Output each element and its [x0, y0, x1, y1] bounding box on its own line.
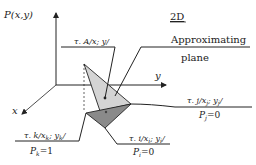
- callout-i-probability: Pi=0: [132, 147, 155, 158]
- callout-j-probability: Pj=0: [198, 110, 220, 122]
- p-axis-label: P(x,y): [3, 9, 33, 20]
- x-axis-label: x: [12, 105, 18, 116]
- x-axis: [22, 85, 56, 114]
- callout-i-label: τ. i/xi; yi/: [129, 134, 166, 144]
- callout-a-label: τ. A/x; y/: [74, 37, 110, 46]
- callout-k-probability: Pk=1: [29, 146, 53, 157]
- y-axis-label: y: [154, 70, 161, 81]
- callout-j-label: τ. j/xj; yj/: [187, 96, 224, 107]
- callout-k-label: τ. k/xk; yk/: [24, 131, 67, 141]
- point-center-lower: [105, 111, 107, 113]
- callout-plane-line2: plane: [181, 52, 209, 63]
- approximating-plane-diagram: P(x,y) y x 2D τ. A/x; y/ Approximating p…: [0, 0, 256, 165]
- diagram-title: 2D: [170, 11, 184, 22]
- callout-plane-line1: Approximating: [170, 34, 247, 45]
